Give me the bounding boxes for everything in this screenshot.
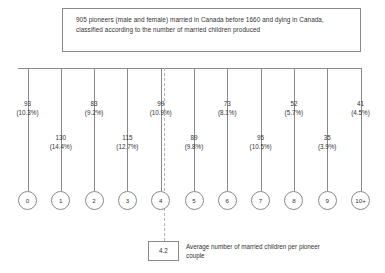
value-percent: (8.1%) bbox=[207, 109, 247, 118]
node-9[interactable]: 9 bbox=[318, 191, 337, 210]
value-count: 83 bbox=[74, 100, 114, 109]
value-label-3: 115(12.7%) bbox=[107, 134, 147, 151]
node-4[interactable]: 4 bbox=[151, 191, 170, 210]
value-percent: (9.8%) bbox=[174, 143, 214, 152]
value-percent: (14.4%) bbox=[41, 143, 81, 152]
value-count: 93 bbox=[8, 100, 48, 109]
value-count: 115 bbox=[107, 134, 147, 143]
value-percent: (3.9%) bbox=[307, 143, 347, 152]
value-percent: (5.7%) bbox=[274, 109, 314, 118]
title-text: 905 pioneers (male and female) married i… bbox=[76, 15, 344, 35]
title-box: 905 pioneers (male and female) married i… bbox=[62, 8, 361, 52]
value-count: 52 bbox=[274, 100, 314, 109]
value-count: 89 bbox=[174, 134, 214, 143]
node-10+[interactable]: 10+ bbox=[351, 191, 370, 210]
value-label-10+: 41(4.5%) bbox=[341, 100, 381, 117]
node-8[interactable]: 8 bbox=[284, 191, 303, 210]
average-caption: Average number of married children per p… bbox=[186, 242, 336, 261]
value-label-2: 83(9.2%) bbox=[74, 100, 114, 117]
drop-line-4 bbox=[161, 68, 162, 191]
value-count: 95 bbox=[241, 134, 281, 143]
diagram-canvas: 905 pioneers (male and female) married i… bbox=[0, 0, 385, 273]
value-percent: (10.9%) bbox=[141, 109, 181, 118]
value-count: 41 bbox=[341, 100, 381, 109]
node-2[interactable]: 2 bbox=[85, 191, 104, 210]
value-label-8: 52(5.7%) bbox=[274, 100, 314, 117]
drop-line-8 bbox=[294, 68, 295, 191]
drop-line-10+ bbox=[361, 68, 362, 191]
drop-line-6 bbox=[227, 68, 228, 191]
drop-line-2 bbox=[94, 68, 95, 191]
value-label-6: 73(8.1%) bbox=[207, 100, 247, 117]
node-0[interactable]: 0 bbox=[18, 191, 37, 210]
value-label-1: 130(14.4%) bbox=[41, 134, 81, 151]
value-label-7: 95(10.5%) bbox=[241, 134, 281, 151]
value-count: 99 bbox=[141, 100, 181, 109]
average-value-box: 4.2 bbox=[148, 241, 179, 261]
drop-line-1 bbox=[61, 68, 62, 191]
drop-line-0 bbox=[28, 68, 29, 191]
value-label-5: 89(9.8%) bbox=[174, 134, 214, 151]
value-label-0: 93(10.3%) bbox=[8, 100, 48, 117]
value-percent: (4.5%) bbox=[341, 109, 381, 118]
value-count: 73 bbox=[207, 100, 247, 109]
value-percent: (9.2%) bbox=[74, 109, 114, 118]
drop-line-9 bbox=[327, 68, 328, 191]
drop-line-3 bbox=[127, 68, 128, 191]
value-label-9: 35(3.9%) bbox=[307, 134, 347, 151]
node-3[interactable]: 3 bbox=[118, 191, 137, 210]
value-percent: (12.7%) bbox=[107, 143, 147, 152]
node-5[interactable]: 5 bbox=[185, 191, 204, 210]
value-label-4: 99(10.9%) bbox=[141, 100, 181, 117]
node-7[interactable]: 7 bbox=[251, 191, 270, 210]
drop-line-5 bbox=[194, 68, 195, 191]
node-6[interactable]: 6 bbox=[218, 191, 237, 210]
value-count: 35 bbox=[307, 134, 347, 143]
average-dashed-line bbox=[164, 68, 165, 241]
drop-line-7 bbox=[261, 68, 262, 191]
node-1[interactable]: 1 bbox=[51, 191, 70, 210]
value-percent: (10.3%) bbox=[8, 109, 48, 118]
value-count: 130 bbox=[41, 134, 81, 143]
value-percent: (10.5%) bbox=[241, 143, 281, 152]
bracket-bar bbox=[18, 68, 361, 69]
